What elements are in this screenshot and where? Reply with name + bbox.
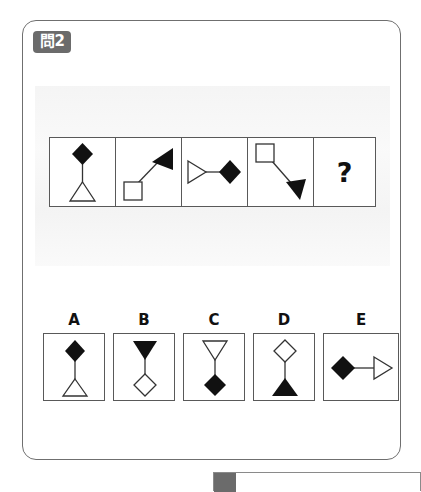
option-d-label: D xyxy=(253,311,315,329)
option-a[interactable]: A xyxy=(43,311,105,401)
next-question-fragment xyxy=(213,472,421,491)
sequence-cell-3 xyxy=(182,138,248,206)
option-e[interactable]: E xyxy=(323,311,399,401)
options-row: A B C xyxy=(43,311,383,421)
sequence-strip: ? xyxy=(49,137,376,207)
figure-triangle-diamond-horizontal xyxy=(182,138,247,206)
sequence-cell-4 xyxy=(248,138,314,206)
option-b-box[interactable] xyxy=(113,333,175,401)
option-a-box[interactable] xyxy=(43,333,105,401)
next-question-badge-fragment xyxy=(214,473,236,492)
question-mark: ? xyxy=(314,157,375,188)
question-number-badge: 問2 xyxy=(33,31,71,53)
figure-open-diamond-filled-triangle-up xyxy=(254,334,316,402)
option-b[interactable]: B xyxy=(113,311,175,401)
figure-square-triangle-diagonal-up xyxy=(116,138,181,206)
figure-filled-diamond-open-triangle-up xyxy=(44,334,106,402)
figure-filled-diamond-open-triangle-right xyxy=(324,334,400,402)
sequence-cell-answer: ? xyxy=(314,138,375,206)
sequence-cell-1 xyxy=(50,138,116,206)
figure-square-triangle-diagonal-down xyxy=(248,138,313,206)
option-d-box[interactable] xyxy=(253,333,315,401)
option-c[interactable]: C xyxy=(183,311,245,401)
option-d[interactable]: D xyxy=(253,311,315,401)
option-b-label: B xyxy=(113,311,175,329)
sequence-cell-2 xyxy=(116,138,182,206)
option-c-label: C xyxy=(183,311,245,329)
option-a-label: A xyxy=(43,311,105,329)
option-e-box[interactable] xyxy=(323,333,399,401)
figure-filled-triangle-down-open-diamond xyxy=(114,334,176,402)
option-c-box[interactable] xyxy=(183,333,245,401)
figure-open-triangle-down-filled-diamond xyxy=(184,334,246,402)
figure-diamond-triangle-vertical xyxy=(50,138,115,206)
question-card: 問2 xyxy=(22,20,401,460)
option-e-label: E xyxy=(323,311,399,329)
